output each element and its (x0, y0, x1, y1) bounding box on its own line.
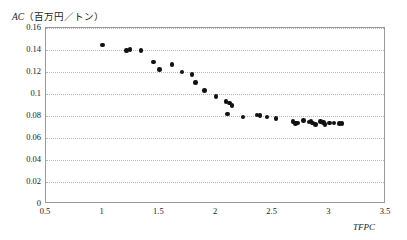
data-point (274, 116, 279, 121)
data-point (202, 88, 207, 93)
x-tick-label: 0.5 (25, 206, 65, 216)
y-axis-title-symbol: AC (12, 12, 24, 22)
data-point (139, 48, 144, 53)
top-margin-band (0, 0, 407, 6)
y-tick-label: 0.14 (0, 44, 41, 54)
data-point (340, 121, 345, 126)
plot-area (45, 27, 385, 203)
data-point (241, 115, 246, 120)
data-point (313, 122, 318, 127)
y-tick-label: 0.02 (0, 176, 41, 186)
y-tick-label: 0.04 (0, 154, 41, 164)
y-tick-label: 0.08 (0, 110, 41, 120)
data-point (295, 121, 300, 126)
data-point (332, 121, 337, 126)
data-point (128, 47, 133, 52)
x-tick-label: 2 (195, 206, 235, 216)
gridline-y (46, 160, 384, 161)
data-point (170, 62, 175, 67)
x-tick-label: 3 (308, 206, 348, 216)
gridline-y (46, 50, 384, 51)
y-axis-title-unit: （百万円／トン） (24, 12, 104, 22)
x-axis-title: TFPC (353, 222, 375, 232)
x-tick-label: 3.5 (365, 206, 405, 216)
gridline-y (46, 138, 384, 139)
data-point (157, 67, 162, 72)
data-point (230, 103, 235, 108)
x-tick-label: 1 (82, 206, 122, 216)
gridline-y (46, 182, 384, 183)
x-tick-label: 2.5 (252, 206, 292, 216)
data-point (193, 80, 198, 85)
data-point (151, 60, 156, 65)
data-point (214, 94, 219, 99)
data-point (190, 72, 195, 77)
data-point (258, 113, 263, 118)
y-tick-label: 0.1 (0, 88, 41, 98)
gridline-y (46, 28, 384, 29)
data-point (265, 115, 270, 120)
data-point (100, 43, 105, 48)
plot-inner (46, 28, 384, 202)
y-tick-label: 0.12 (0, 66, 41, 76)
y-tick-label: 0.06 (0, 132, 41, 142)
y-tick-label: 0.16 (0, 22, 41, 32)
chart-root: AC（百万円／トン） 00.020.040.060.080.10.120.140… (0, 0, 407, 240)
gridline-y (46, 116, 384, 117)
y-axis-title: AC（百万円／トン） (12, 9, 104, 23)
data-point (180, 70, 185, 75)
data-point (301, 118, 306, 123)
data-point (225, 112, 230, 117)
data-point (327, 121, 332, 126)
gridline-y (46, 72, 384, 73)
x-tick-label: 1.5 (138, 206, 178, 216)
